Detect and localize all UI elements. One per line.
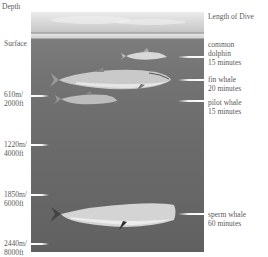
depth-label-1850m: 1850m/ 6000ft — [4, 190, 27, 208]
depth-label-1220m: 1220m/ 4000ft — [4, 140, 27, 158]
tick-fin-whale — [178, 79, 204, 81]
depth-label-surface: Surface — [4, 39, 27, 48]
whales-illustration — [31, 12, 204, 252]
sperm-whale-icon — [50, 203, 176, 230]
length-of-dive-header: Length of Dive — [208, 12, 254, 21]
fin-whale-icon — [50, 67, 171, 92]
pilot-whale-icon — [54, 91, 117, 104]
tick-1850m — [31, 194, 49, 196]
depth-header: Depth — [2, 2, 20, 11]
tick-pilot-whale — [178, 100, 204, 102]
depth-label-2440m: 2440m/ 8000ft — [4, 239, 27, 257]
tick-610m — [31, 95, 49, 97]
species-label-pilot-whale: pilot whale 15 minutes — [208, 98, 242, 116]
species-label-sperm-whale: sperm whale 60 minutes — [208, 210, 246, 228]
species-label-fin-whale: fin whale 20 minutes — [208, 75, 241, 93]
common-dolphin-icon — [120, 48, 167, 60]
tick-sperm-whale — [178, 213, 204, 215]
ocean-depth-illustration — [31, 12, 204, 252]
species-label-common-dolphin: common dolphin 15 minutes — [208, 40, 241, 67]
tick-common-dolphin — [178, 56, 204, 58]
depth-label-610m: 610m/ 2000ft — [4, 90, 24, 108]
tick-1220m — [31, 144, 49, 146]
tick-2440m — [31, 243, 49, 245]
